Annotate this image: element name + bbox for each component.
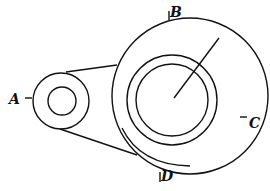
belt-bottom bbox=[60, 129, 137, 155]
large-wheel bbox=[112, 18, 268, 174]
belt-wrap-arc bbox=[122, 128, 190, 166]
small-pulley-hub bbox=[48, 87, 76, 115]
radius-line bbox=[174, 38, 219, 98]
label-b: B bbox=[169, 4, 182, 20]
label-d: D bbox=[160, 168, 174, 184]
small-pulley-outer bbox=[33, 73, 89, 129]
label-a: A bbox=[7, 91, 20, 107]
hub-outer-ring bbox=[127, 55, 217, 145]
label-c: C bbox=[249, 115, 260, 131]
hub-inner-ring bbox=[136, 64, 208, 136]
belt-top bbox=[66, 65, 117, 72]
large-wheel-rim bbox=[112, 18, 268, 174]
pulley-diagram: A B C D bbox=[0, 0, 270, 191]
small-pulley bbox=[33, 73, 89, 129]
